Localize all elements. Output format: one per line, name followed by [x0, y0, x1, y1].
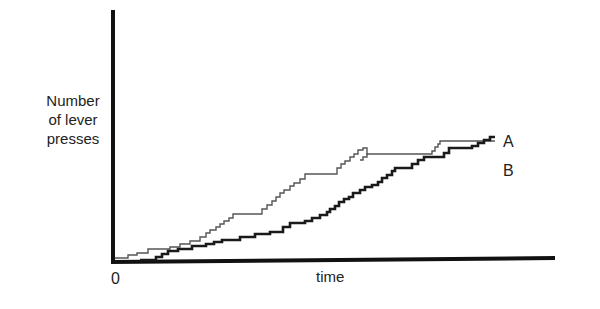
- x-axis-origin-label: 0: [111, 270, 120, 288]
- chart-plot-area: [0, 0, 600, 309]
- x-axis-label: time: [316, 268, 344, 285]
- y-axis-label-line-3: presses: [28, 129, 118, 148]
- y-axis-label-line-2: of lever: [28, 110, 118, 129]
- x-axis: [111, 258, 555, 262]
- y-axis-label-line-1: Number: [28, 91, 118, 110]
- chart: Number of lever presses 0 time A B: [0, 0, 600, 309]
- series-a-line: [115, 148, 367, 258]
- series-a-label: A: [503, 133, 514, 151]
- y-axis-label: Number of lever presses: [28, 91, 118, 148]
- series-b-label: B: [503, 162, 514, 180]
